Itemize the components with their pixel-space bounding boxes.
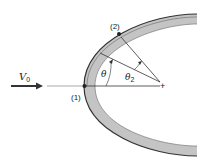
theta2-label: θ2 bbox=[125, 72, 134, 83]
point2-label: (2) bbox=[110, 22, 120, 31]
theta-arc-arrow bbox=[109, 59, 113, 64]
shell-band bbox=[84, 14, 197, 156]
theta2-arc-arrow bbox=[138, 61, 142, 65]
theta-arc bbox=[106, 61, 111, 86]
point-1 bbox=[83, 84, 87, 88]
velocity-label: V0 bbox=[19, 71, 30, 83]
velocity-arrow-head bbox=[36, 83, 43, 90]
center-mark: + bbox=[160, 81, 165, 91]
flow-diagram: V0 θ θ2 (1) (2) + bbox=[0, 0, 197, 163]
theta2-arc bbox=[134, 63, 140, 70]
point1-label: (1) bbox=[71, 93, 81, 102]
point-2 bbox=[117, 32, 121, 36]
theta-label: θ bbox=[101, 69, 107, 79]
